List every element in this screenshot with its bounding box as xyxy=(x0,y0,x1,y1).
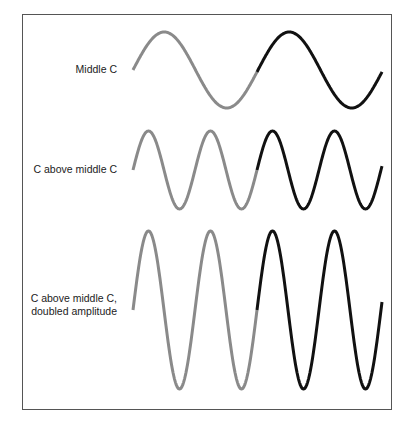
wave-c-above-middle-c-gray xyxy=(133,131,257,209)
wave-c-above-middle-c-black xyxy=(257,131,382,209)
wave-doubled-amplitude-black xyxy=(257,231,382,389)
wave-middle-c-gray xyxy=(133,32,257,108)
wave-doubled-amplitude-gray xyxy=(133,231,257,389)
wave-middle-c-black xyxy=(257,32,382,108)
waveforms xyxy=(0,0,413,431)
